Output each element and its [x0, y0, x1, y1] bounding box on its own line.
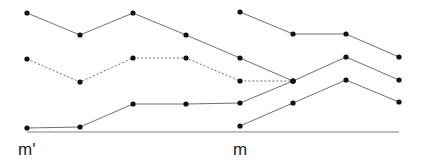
node-dot — [396, 54, 401, 59]
label-m-prime: m' — [18, 140, 35, 160]
node-dot — [237, 123, 242, 128]
node-dot — [290, 100, 295, 105]
node-dot — [24, 56, 29, 61]
node-dot — [24, 10, 29, 15]
node-dot — [343, 77, 348, 82]
node-dot — [290, 78, 295, 83]
node-dot — [237, 9, 242, 14]
node-dot — [130, 55, 135, 60]
node-dot — [130, 101, 135, 106]
node-dot — [343, 31, 348, 36]
path-1 — [27, 13, 293, 81]
node-dot — [290, 31, 295, 36]
path-2 — [27, 58, 293, 82]
node-dot — [396, 77, 401, 82]
node-dot — [183, 55, 188, 60]
node-dot — [237, 100, 242, 105]
node-dot — [343, 54, 348, 59]
node-dot — [183, 32, 188, 37]
node-dot — [396, 99, 401, 104]
node-dot — [77, 79, 82, 84]
node-dot — [237, 55, 242, 60]
path-5 — [240, 80, 399, 126]
path-diagram — [0, 0, 421, 164]
node-dot — [183, 101, 188, 106]
node-dot — [130, 10, 135, 15]
node-dot — [237, 78, 242, 83]
label-m: m — [233, 140, 247, 160]
path-3 — [27, 57, 399, 128]
node-dot — [77, 124, 82, 129]
node-dot — [24, 125, 29, 130]
path-4 — [240, 12, 399, 57]
node-dot — [77, 32, 82, 37]
